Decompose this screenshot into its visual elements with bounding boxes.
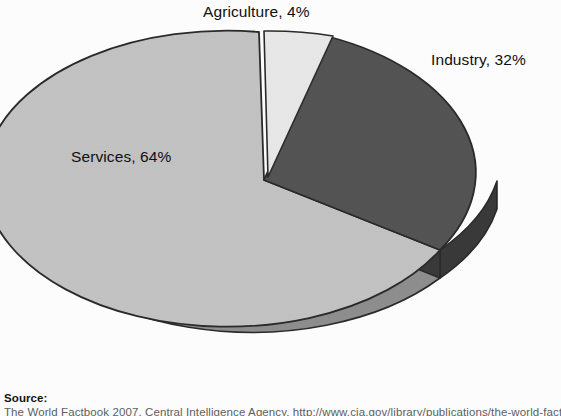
- pie-label-agriculture: Agriculture, 4%: [203, 3, 310, 21]
- pie-label-industry: Industry, 32%: [431, 51, 526, 69]
- pie-chart-figure: Agriculture, 4% Industry, 32% Services, …: [0, 0, 561, 416]
- source-citation: The World Factbook 2007, Central Intelli…: [4, 406, 561, 416]
- source-heading: Source:: [4, 392, 561, 405]
- pie-label-services: Services, 64%: [71, 148, 171, 166]
- source-note: Source: The World Factbook 2007, Central…: [4, 392, 561, 416]
